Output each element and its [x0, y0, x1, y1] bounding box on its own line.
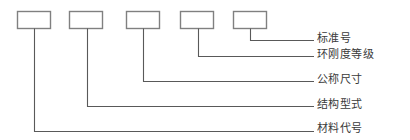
leader-line-stiffness-grade	[199, 29, 315, 57]
designation-box-2[interactable]	[70, 12, 103, 29]
designation-box-1[interactable]	[18, 12, 51, 29]
designation-box-3[interactable]	[127, 12, 160, 29]
designation-box-4[interactable]	[181, 12, 214, 29]
designation-diagram: 标准号 环刚度等级 公称尺寸 结构型式 材料代号	[0, 0, 410, 140]
leader-line-nominal-size	[144, 29, 315, 82]
leader-line-material-code	[35, 29, 315, 132]
callout-label-stiffness-grade: 环刚度等级	[317, 49, 374, 61]
callout-label-standard-number: 标准号	[317, 33, 351, 45]
callout-label-structure-type: 结构型式	[317, 99, 363, 111]
leader-line-standard-number	[251, 29, 315, 41]
designation-box-5[interactable]	[234, 12, 267, 29]
callout-label-material-code: 材料代号	[317, 123, 363, 135]
diagram-canvas	[0, 0, 410, 140]
callout-label-nominal-size: 公称尺寸	[317, 74, 363, 86]
